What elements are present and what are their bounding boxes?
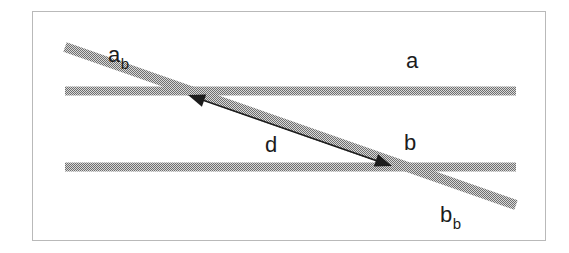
diagram-svg: abadbbb [0, 0, 569, 253]
label-a-sub-b-base: a [108, 42, 121, 67]
label-b: b [404, 130, 416, 155]
label-b-base: b [404, 130, 416, 155]
diagonal-band-ab-bb [65, 47, 516, 205]
label-b-sub-b-base: b [440, 202, 452, 227]
diagram-canvas: abadbbb [0, 0, 569, 253]
arrow-shaft [197, 98, 383, 163]
label-a-base: a [406, 48, 419, 73]
label-d-base: d [265, 132, 277, 157]
label-b-sub-b: bb [440, 202, 461, 232]
label-d: d [265, 132, 277, 157]
distance-arrow [188, 94, 392, 166]
label-a-sub-b-subscript: b [121, 55, 129, 72]
diagram-labels: abadbbb [108, 42, 461, 232]
label-a: a [406, 48, 419, 73]
label-b-sub-b-subscript: b [453, 215, 461, 232]
arrow-head-start-icon [188, 94, 206, 106]
